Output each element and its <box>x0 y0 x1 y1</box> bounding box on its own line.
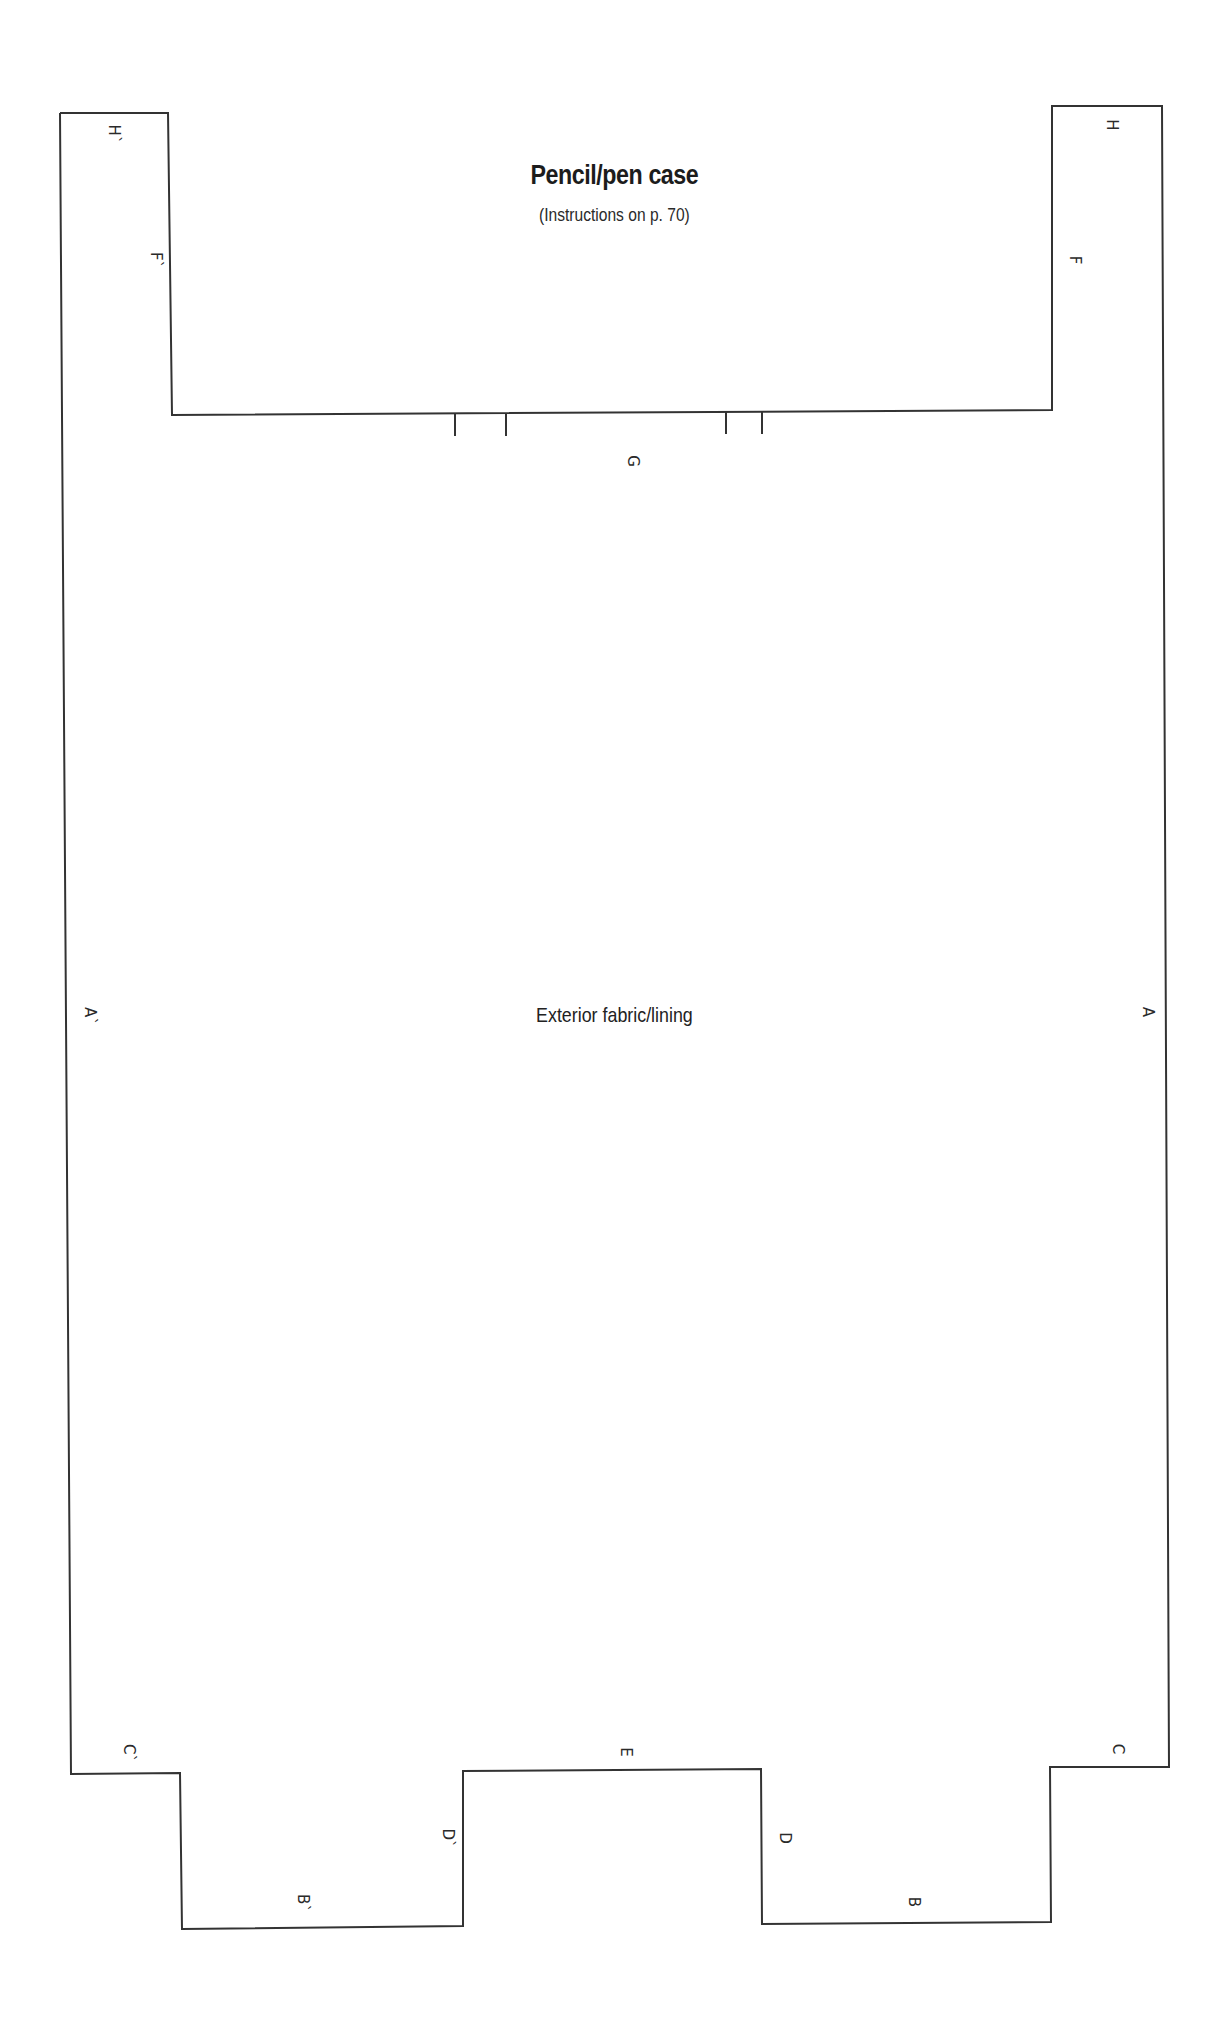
page-subtitle: (Instructions on p. 70) <box>111 204 1119 226</box>
mark-d: D <box>777 1832 792 1844</box>
mark-f: F <box>1067 256 1082 265</box>
mark-d-prime: D` <box>440 1828 455 1847</box>
mark-e: E <box>618 1747 633 1756</box>
mark-h: H <box>1104 119 1119 130</box>
mark-a: A <box>1140 1007 1155 1017</box>
mark-b-prime: B` <box>295 1894 310 1912</box>
pattern-page: Pencil/pen case (Instructions on p. 70) … <box>0 0 1229 2019</box>
mark-b: B <box>906 1897 921 1907</box>
mark-c-prime: C` <box>121 1744 136 1762</box>
mark-a-prime: A` <box>82 1007 97 1025</box>
mark-g: G <box>625 455 640 467</box>
piece-label: Exterior fabric/lining <box>92 1003 1137 1027</box>
page-title: Pencil/pen case <box>86 160 1143 191</box>
mark-c: C <box>1110 1744 1125 1754</box>
mark-h-prime: H` <box>106 125 121 144</box>
mark-f-prime: F` <box>148 252 163 268</box>
